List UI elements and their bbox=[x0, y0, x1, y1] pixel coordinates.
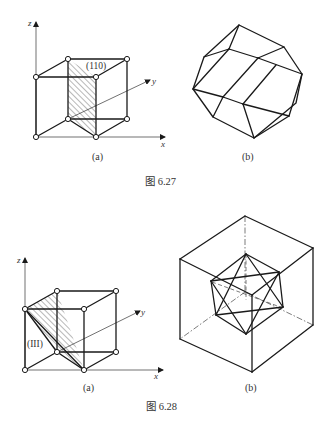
plane-label: (110) bbox=[86, 62, 106, 72]
inner-polyhedron-edges bbox=[211, 254, 283, 334]
panel-label-b: (b) bbox=[242, 152, 254, 162]
panel-label-b: (b) bbox=[245, 383, 257, 393]
figure-caption: 图 6.27 bbox=[145, 177, 176, 188]
fig-6-27a-cube-diagram bbox=[33, 22, 165, 140]
outer-cube-edges bbox=[180, 216, 313, 372]
x-axis-label: x bbox=[161, 140, 165, 149]
panel-label-a: (a) bbox=[92, 152, 103, 162]
figure-caption: 图 6.28 bbox=[146, 402, 177, 413]
y-axis-label: y bbox=[141, 308, 145, 317]
panel-label-a: (a) bbox=[83, 383, 94, 393]
z-axis-label: z bbox=[28, 19, 32, 28]
fig-6-27b-rhombic-dodecahedron bbox=[193, 25, 302, 138]
x-axis-label: x bbox=[154, 372, 158, 381]
plane-label: (III) bbox=[27, 340, 43, 350]
fig-6-28b-cube-octahedron bbox=[180, 216, 313, 372]
plane-111-shading bbox=[25, 291, 84, 370]
y-axis-label: y bbox=[152, 77, 156, 86]
z-axis-label: z bbox=[17, 256, 21, 265]
figure-canvas bbox=[0, 0, 330, 427]
